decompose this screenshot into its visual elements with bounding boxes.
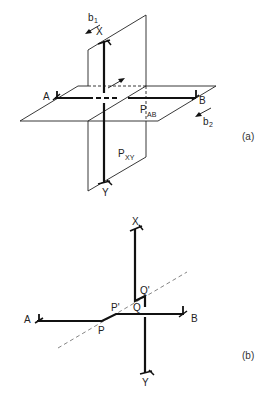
label-y-a: Y — [102, 187, 109, 198]
line-xy-b — [130, 225, 154, 375]
label-b2-sub: 2 — [209, 121, 213, 128]
label-plane-ab-sub: AB — [147, 111, 157, 118]
caption-b: (b) — [242, 350, 254, 361]
panel-b: X Y A B P P' Q Q' (b) — [24, 216, 254, 388]
label-a-a: A — [43, 91, 50, 102]
label-x-b: X — [132, 216, 139, 227]
line-xy — [98, 40, 112, 185]
label-b1-sub: 1 — [94, 17, 98, 24]
direction-arrow-icon — [108, 78, 125, 88]
label-plane-xy: P — [118, 148, 125, 159]
label-b-a: B — [199, 95, 206, 106]
label-q: Q — [133, 302, 141, 313]
label-a-b: A — [24, 314, 31, 325]
caption-a: (a) — [242, 131, 254, 142]
label-y-b: Y — [142, 377, 149, 388]
label-b-b: B — [191, 313, 198, 324]
label-p: P — [98, 325, 105, 336]
label-plane-ab: P — [140, 104, 147, 115]
figure-canvas: X Y A B P AB P XY b 1 b 2 (a) — [0, 0, 273, 396]
label-x-a: X — [96, 26, 103, 37]
panel-a: X Y A B P AB P XY b 1 b 2 (a) — [20, 12, 254, 198]
label-q-prime: Q' — [140, 285, 150, 296]
label-p-prime: P' — [111, 302, 120, 313]
label-plane-xy-sub: XY — [125, 154, 135, 161]
slip-plane-trace — [58, 272, 187, 348]
